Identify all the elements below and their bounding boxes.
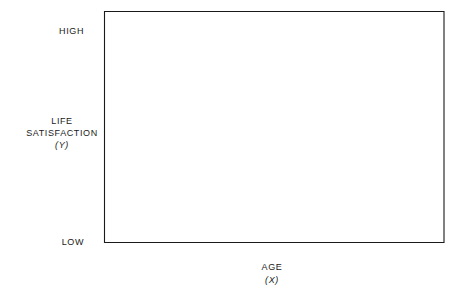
scatter-plot-figure: HIGH LOW LIFE SATISFACTION (Y) AGE (X) bbox=[0, 0, 455, 294]
y-axis-low-label: LOW bbox=[62, 237, 84, 247]
y-axis-high-label: HIGH bbox=[59, 26, 84, 36]
y-axis-title-symbol: (Y) bbox=[55, 140, 69, 150]
y-axis-title-line2: SATISFACTION bbox=[26, 128, 98, 138]
x-axis-title-symbol: (X) bbox=[265, 275, 279, 285]
scatter-plot-canvas: HIGH LOW LIFE SATISFACTION (Y) AGE (X) bbox=[0, 0, 455, 294]
x-axis-title: AGE bbox=[262, 262, 283, 272]
y-axis-title-line1: LIFE bbox=[51, 116, 72, 126]
